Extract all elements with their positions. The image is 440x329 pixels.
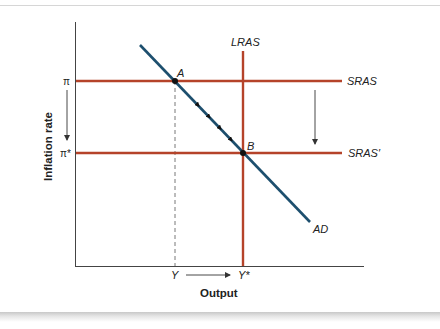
ad-as-diagram: LRAS SRAS SRAS′ AD A B π π* Y Y* Output …: [0, 0, 440, 329]
y-axis-title: Inflation rate: [42, 112, 54, 181]
point-b-label: B: [247, 140, 254, 152]
y-tick-label: Y: [171, 269, 179, 281]
point-a-label: A: [176, 67, 184, 79]
lras-label: LRAS: [231, 36, 260, 48]
pi-star-tick-label: π*: [60, 148, 71, 159]
sras-prime-label: SRAS′: [348, 147, 381, 159]
sras-label: SRAS: [347, 75, 378, 87]
point-b: [240, 150, 246, 156]
pi-tick-label: π: [63, 76, 70, 87]
ad-label: AD: [312, 223, 328, 235]
y-star-tick-label: Y*: [238, 269, 250, 281]
x-axis-title: Output: [200, 287, 238, 299]
